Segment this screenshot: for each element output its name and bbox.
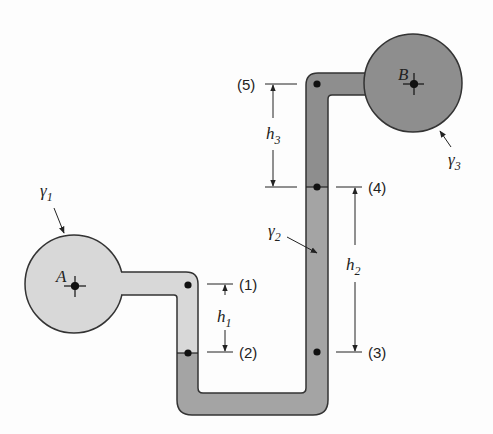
gamma-2-label: γ2 <box>268 221 281 244</box>
h1-label: h1 <box>217 307 232 330</box>
h3-label: h3 <box>266 124 281 147</box>
gamma-1-arrow-icon <box>54 208 64 233</box>
gamma-3-arrow-icon <box>440 131 451 147</box>
vessel-b-label: B <box>398 65 409 84</box>
pipe-outline <box>121 73 365 415</box>
manometer-diagram: A B h1 (1) (2) h2 (4) (3) h3 (5) γ1 γ2 <box>0 0 493 434</box>
point-3-label: (3) <box>368 344 386 361</box>
point-1-label: (1) <box>239 276 257 293</box>
point-2-marker <box>184 349 191 356</box>
fluid-3-region <box>306 34 462 187</box>
point-5-label: (5) <box>237 76 255 93</box>
point-5-marker <box>313 80 320 87</box>
point-3-marker <box>313 348 320 355</box>
point-4-label: (4) <box>368 179 386 196</box>
gamma-3-label: γ3 <box>448 150 461 173</box>
fluid-1-region <box>25 235 198 353</box>
pipe-segment-b <box>306 73 372 187</box>
gamma-1-label: γ1 <box>40 181 53 204</box>
point-2-label: (2) <box>239 344 257 361</box>
point-1-marker <box>184 281 191 288</box>
h2-label: h2 <box>346 255 361 278</box>
point-4-marker <box>313 183 320 190</box>
vessel-a-label: A <box>55 267 67 286</box>
